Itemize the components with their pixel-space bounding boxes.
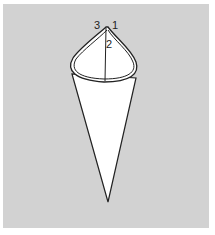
paper-cone-illustration (0, 0, 215, 235)
label-2: 2 (106, 39, 112, 50)
label-1: 1 (112, 20, 118, 31)
label-3: 3 (94, 20, 100, 31)
cone-body (72, 74, 136, 202)
